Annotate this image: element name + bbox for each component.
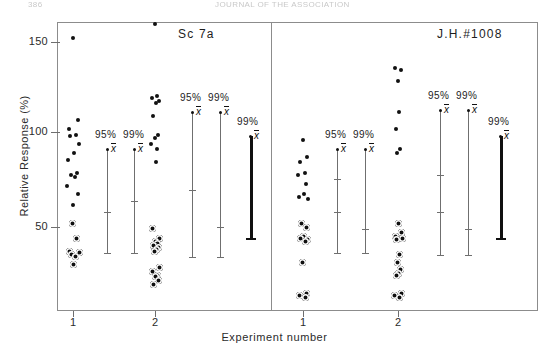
interval-cap-lower bbox=[189, 257, 196, 258]
interval-level-label: 99% bbox=[208, 92, 230, 103]
data-point bbox=[153, 22, 157, 26]
data-point bbox=[396, 251, 403, 258]
interval-level-label: 99% bbox=[353, 129, 375, 140]
confidence-interval-bar bbox=[220, 112, 221, 256]
data-point bbox=[394, 259, 401, 266]
mean-symbol: x bbox=[444, 104, 449, 115]
data-point bbox=[149, 142, 153, 146]
data-point bbox=[67, 127, 71, 131]
mean-symbol: x bbox=[224, 106, 229, 117]
data-point bbox=[77, 142, 81, 146]
x-tick-label-left-2: 2 bbox=[145, 316, 165, 328]
data-point bbox=[399, 68, 403, 72]
interval-cap-lower bbox=[437, 255, 444, 256]
interval-cap-inner bbox=[131, 201, 138, 202]
plot-frame bbox=[57, 22, 538, 311]
mean-symbol: x bbox=[196, 106, 201, 117]
interval-cap-inner bbox=[362, 229, 369, 230]
data-point bbox=[70, 261, 77, 268]
data-point bbox=[150, 281, 157, 288]
y-tick-50 bbox=[51, 227, 60, 228]
panel-title-left: Sc 7a bbox=[178, 27, 215, 41]
confidence-interval-bar bbox=[337, 149, 338, 253]
confidence-interval-bar bbox=[250, 136, 253, 238]
interval-level-label: 95% bbox=[325, 129, 347, 140]
interval-level-label: 95% bbox=[95, 129, 117, 140]
data-point bbox=[394, 127, 398, 131]
interval-cap-inner bbox=[334, 212, 341, 213]
confidence-interval-bar bbox=[107, 149, 108, 253]
panel-divider bbox=[271, 22, 272, 311]
data-point bbox=[393, 66, 397, 70]
interval-cap-inner bbox=[189, 190, 196, 191]
data-point bbox=[74, 133, 78, 137]
data-point bbox=[396, 79, 400, 83]
confidence-interval-bar bbox=[365, 149, 366, 253]
interval-level-label: 99% bbox=[488, 116, 510, 127]
mean-symbol: x bbox=[138, 143, 143, 154]
mean-symbol: x bbox=[504, 130, 509, 141]
interval-cap-lower bbox=[131, 253, 138, 254]
interval-cap-inner bbox=[104, 212, 111, 213]
data-point bbox=[76, 118, 80, 122]
data-point bbox=[302, 238, 309, 245]
page-folio: 386 bbox=[28, 0, 43, 9]
figure-root: 386 JOURNAL OF THE ASSOCIATION 150 100 5… bbox=[0, 0, 549, 351]
data-point bbox=[149, 225, 156, 232]
interval-level-label: 99% bbox=[237, 116, 259, 127]
interval-level-label: 95% bbox=[428, 90, 450, 101]
running-head-title: JOURNAL OF THE ASSOCIATION bbox=[215, 0, 350, 9]
panel-title-right: J.H.#1008 bbox=[437, 27, 503, 41]
interval-cap-inner bbox=[334, 179, 341, 180]
y-tick-100 bbox=[51, 132, 60, 133]
data-point bbox=[393, 236, 400, 243]
data-point bbox=[393, 272, 400, 279]
data-point bbox=[302, 294, 309, 301]
data-point bbox=[73, 235, 80, 242]
data-point bbox=[72, 253, 79, 260]
interval-cap-inner bbox=[246, 238, 256, 240]
data-point bbox=[150, 96, 154, 100]
mean-symbol: x bbox=[472, 104, 477, 115]
interval-cap-inner bbox=[217, 227, 224, 228]
interval-cap-inner bbox=[437, 175, 444, 176]
y-tick-150 bbox=[51, 42, 60, 43]
data-point bbox=[72, 151, 76, 155]
interval-cap-lower bbox=[217, 257, 224, 258]
y-tick-label-150: 150 bbox=[22, 35, 48, 47]
mean-symbol: x bbox=[111, 143, 116, 154]
mean-symbol: x bbox=[254, 130, 259, 141]
y-axis-label: Relative Response (%) bbox=[18, 76, 30, 236]
interval-level-label: 99% bbox=[123, 129, 145, 140]
data-point bbox=[76, 192, 80, 196]
x-tick-label-right-1: 1 bbox=[293, 316, 313, 328]
data-point bbox=[151, 248, 158, 255]
data-point bbox=[395, 151, 399, 155]
data-point bbox=[151, 114, 155, 118]
interval-cap-lower bbox=[104, 253, 111, 254]
data-point bbox=[302, 192, 306, 196]
data-point bbox=[299, 259, 306, 266]
page-running-head: 386 JOURNAL OF THE ASSOCIATION bbox=[0, 0, 549, 12]
mean-symbol: x bbox=[341, 143, 346, 154]
data-point bbox=[156, 264, 163, 271]
data-point bbox=[155, 94, 159, 98]
confidence-interval-bar bbox=[440, 110, 441, 254]
x-tick-label-left-1: 1 bbox=[63, 316, 83, 328]
interval-cap-inner bbox=[496, 238, 506, 240]
data-point bbox=[303, 224, 310, 231]
interval-level-label: 99% bbox=[456, 90, 478, 101]
interval-cap-inner bbox=[437, 212, 444, 213]
data-point bbox=[305, 155, 309, 159]
confidence-interval-bar bbox=[192, 112, 193, 256]
interval-level-label: 95% bbox=[180, 92, 202, 103]
x-tick-label-right-2: 2 bbox=[388, 316, 408, 328]
data-point bbox=[399, 235, 406, 242]
interval-cap-lower bbox=[362, 253, 369, 254]
interval-cap-inner bbox=[465, 229, 472, 230]
interval-cap-lower bbox=[465, 255, 472, 256]
mean-symbol: x bbox=[369, 143, 374, 154]
data-point bbox=[395, 220, 402, 227]
data-point bbox=[69, 220, 76, 227]
confidence-interval-bar bbox=[500, 136, 503, 238]
